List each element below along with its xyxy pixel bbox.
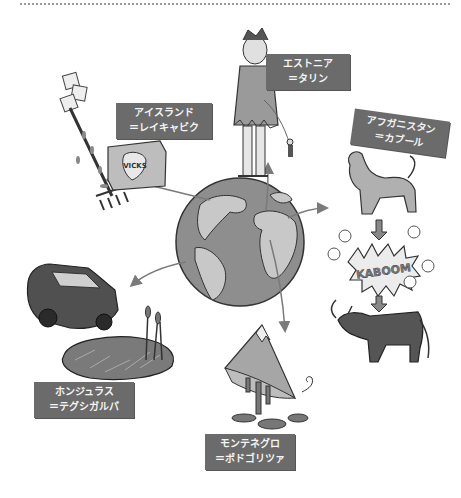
capital-name: ＝ポドゴリツァ (205, 451, 295, 466)
globe-icon (176, 178, 304, 306)
label-estonia: エストニア ＝タリン (266, 54, 350, 90)
capital-name: ＝レイキャビク (116, 120, 212, 135)
capital-name: ＝タリン (266, 71, 350, 86)
country-name: モンテネグロ (205, 436, 295, 451)
country-name: エストニア (266, 56, 350, 71)
label-honduras: ホンジュラス ＝テグシガルパ (34, 382, 134, 418)
label-iceland: アイスランド ＝レイキャビク (116, 103, 212, 139)
illustration-canvas: VICKS KABOOM (0, 0, 461, 498)
iceland-illustration: VICKS (60, 72, 166, 210)
label-montenegro: モンテネグロ ＝ポドゴリツァ (205, 434, 295, 470)
honduras-illustration (28, 264, 174, 380)
svg-text:VICKS: VICKS (123, 162, 147, 170)
country-name: アイスランド (116, 105, 212, 120)
capital-name: ＝テグシガルパ (34, 399, 134, 414)
estonia-illustration (234, 28, 293, 176)
afghanistan-illustration: KABOOM (328, 152, 434, 362)
country-name: ホンジュラス (34, 384, 134, 399)
montenegro-illustration (225, 325, 313, 429)
